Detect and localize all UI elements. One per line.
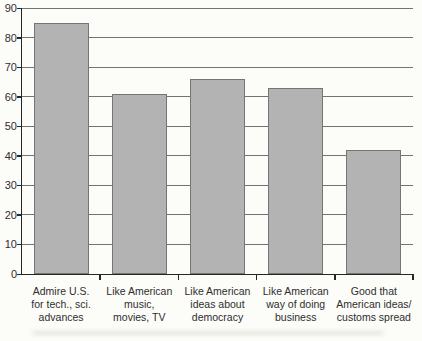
category-label-2: Like Americanideas aboutdemocracy xyxy=(172,285,262,324)
bar-1 xyxy=(112,94,167,274)
category-label-1-line-0: Like American xyxy=(94,285,184,298)
category-label-0-line-1: for tech., sci. xyxy=(16,298,106,311)
y-axis-label-10: 10 xyxy=(0,238,17,250)
y-axis-label-50: 50 xyxy=(0,120,17,132)
y-axis-label-20: 20 xyxy=(0,209,17,221)
x-tick-1 xyxy=(99,275,101,280)
category-label-4: Good thatAmerican ideas/customs spread xyxy=(329,285,419,324)
x-tick-5 xyxy=(412,275,414,280)
bar-chart-figure: 0102030405060708090Admire U.S.for tech.,… xyxy=(0,0,422,341)
y-axis-line xyxy=(21,8,23,275)
category-label-1: Like Americanmusic,movies, TV xyxy=(94,285,184,324)
bar-2 xyxy=(190,79,245,274)
category-label-3-line-0: Like American xyxy=(251,285,341,298)
bar-3 xyxy=(268,88,323,274)
category-label-3-line-1: way of doing xyxy=(251,298,341,311)
category-label-2-line-2: democracy xyxy=(172,311,262,324)
category-label-4-line-2: customs spread xyxy=(329,311,419,324)
bar-0 xyxy=(34,23,89,274)
y-axis-label-60: 60 xyxy=(0,91,17,103)
category-label-0: Admire U.S.for tech., sci.advances xyxy=(16,285,106,324)
category-label-2-line-0: Like American xyxy=(172,285,262,298)
y-axis-label-80: 80 xyxy=(0,32,17,44)
category-label-4-line-1: American ideas/ xyxy=(329,298,419,311)
y-axis-label-70: 70 xyxy=(0,61,17,73)
gridline-90 xyxy=(22,8,413,9)
category-label-1-line-1: music, xyxy=(94,298,184,311)
y-axis-label-30: 30 xyxy=(0,179,17,191)
x-tick-3 xyxy=(256,275,258,280)
x-tick-4 xyxy=(334,275,336,280)
category-label-0-line-0: Admire U.S. xyxy=(16,285,106,298)
x-tick-2 xyxy=(178,275,180,280)
y-axis-label-40: 40 xyxy=(0,150,17,162)
category-label-4-line-0: Good that xyxy=(329,285,419,298)
scan-artifact xyxy=(32,331,384,335)
category-label-0-line-2: advances xyxy=(16,311,106,324)
y-axis-label-0: 0 xyxy=(0,268,17,280)
x-axis-line xyxy=(21,274,415,276)
category-label-3-line-2: business xyxy=(251,311,341,324)
plot-area: 0102030405060708090Admire U.S.for tech.,… xyxy=(0,0,422,341)
y-axis-label-90: 90 xyxy=(0,2,17,14)
category-label-3: Like Americanway of doingbusiness xyxy=(251,285,341,324)
bar-4 xyxy=(346,150,401,274)
category-label-1-line-2: movies, TV xyxy=(94,311,184,324)
category-label-2-line-1: ideas about xyxy=(172,298,262,311)
